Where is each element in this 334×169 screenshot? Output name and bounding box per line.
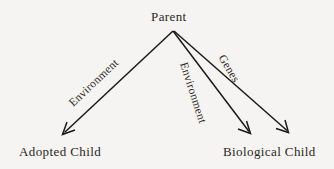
path-diagram: Parent Adopted Child Biological Child En… (0, 0, 334, 169)
edge-line-environment-adopted (65, 31, 174, 133)
node-label-parent: Parent (151, 10, 187, 23)
node-label-biological-child: Biological Child (223, 145, 316, 158)
node-label-adopted-child: Adopted Child (19, 145, 101, 158)
